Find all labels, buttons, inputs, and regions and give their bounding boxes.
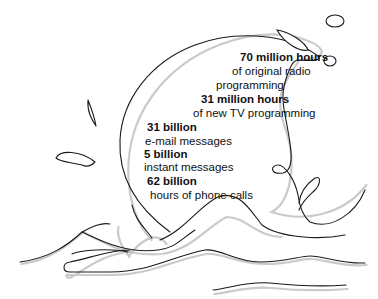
- stat-label-tv: of new TV programming: [193, 106, 316, 120]
- stat-value-tv: 31 million hours: [201, 92, 289, 106]
- stat-value-radio: 70 million hours: [240, 50, 328, 64]
- stat-label-email: e-mail messages: [145, 134, 232, 148]
- stat-label-radio-2: programming: [216, 78, 284, 92]
- stat-value-phone: 62 billion: [147, 174, 197, 188]
- stat-label-im: instant messages: [144, 160, 234, 174]
- stat-label-phone: hours of phone calls: [150, 188, 253, 202]
- stat-label-radio-1: of original radio: [232, 64, 311, 78]
- wave-splash-illustration: [0, 0, 378, 299]
- stat-value-im: 5 billion: [144, 147, 187, 161]
- stat-value-email: 31 billion: [147, 120, 197, 134]
